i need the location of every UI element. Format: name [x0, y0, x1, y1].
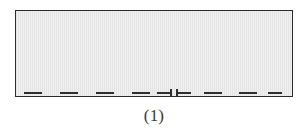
dash-segment	[178, 92, 191, 94]
specimen-rectangle	[15, 10, 293, 97]
figure-container: (1)	[0, 0, 308, 134]
dash-segment	[157, 92, 170, 94]
left-gap-tick	[170, 89, 172, 97]
dashed-interface-line	[15, 89, 293, 97]
dash-segment	[239, 92, 257, 94]
figure-caption: (1)	[0, 104, 308, 128]
dash-segment	[204, 92, 222, 94]
dash-segment	[268, 92, 282, 94]
dash-segment	[96, 92, 114, 94]
dash-segment	[60, 92, 78, 94]
dash-segment	[132, 92, 150, 94]
dash-segment	[24, 92, 42, 94]
